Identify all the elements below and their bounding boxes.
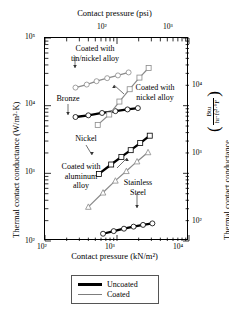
bottom-axis-title: Contact pressure (kN/m²) [0, 251, 229, 261]
legend: Uncoated Coated [71, 275, 159, 304]
figure-container: Contact pressure (psi) Contact pressure … [0, 0, 229, 312]
anno-nickel: Nickel [66, 134, 106, 144]
open-paren: ( [205, 126, 222, 132]
legend-label-uncoated: Uncoated [107, 280, 138, 289]
ytick-100000: 10⁵ [25, 32, 35, 41]
top-axis-title: Contact pressure (psi) [0, 8, 229, 18]
right-axis-title: Thermal contact conductance [222, 140, 229, 240]
xtop-tick-1000: 10³ [163, 22, 173, 31]
anno-bronze: Bronze [47, 94, 89, 104]
xtop-tick-100: 10² [97, 22, 107, 31]
anno-nickel-alloy: Coated with nickel alloy [122, 83, 188, 102]
close-paren: ) [205, 91, 222, 97]
unit-fraction: Btu hr·ft²·°F [206, 98, 222, 126]
legend-swatch-uncoated [78, 283, 102, 286]
legend-swatch-coated [78, 294, 102, 295]
xtick-10000: 10⁴ [173, 242, 183, 251]
anno-aluminum-alloy: Coated with aluminum alloy [45, 162, 117, 191]
unit-numerator: Btu [206, 104, 213, 118]
right-axis-unit: ( Btu hr·ft²·°F ) [205, 91, 222, 132]
legend-item-uncoated: Uncoated [78, 280, 158, 289]
xtick-100: 10² [37, 242, 47, 251]
left-axis-title: Thermal contact conductance (W/m²·K) [11, 102, 21, 238]
anno-stainless-steel: Stainless Steel [113, 178, 163, 197]
anno-tin-nickel-alloy: Coated with tin/nickel alloy [58, 44, 132, 63]
ytick-10000: 10⁴ [25, 99, 35, 108]
ytick-right-1000: 10³ [192, 148, 202, 157]
ytick-right-10000: 10⁴ [192, 80, 202, 89]
ytick-100: 10² [25, 236, 35, 245]
unit-denominator: hr·ft²·°F [213, 98, 221, 126]
ytick-1000: 10³ [25, 167, 35, 176]
xtick-1000: 10³ [105, 242, 115, 251]
legend-item-coated: Coated [78, 290, 158, 299]
plot-area: Coated with tin/nickel alloy Bronze Coat… [44, 37, 188, 240]
legend-label-coated: Coated [107, 290, 130, 299]
ytick-right-100: 10² [192, 216, 202, 225]
